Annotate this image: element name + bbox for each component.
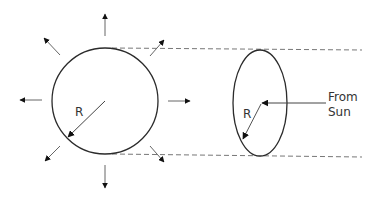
arrow-up-left-icon: [44, 38, 60, 55]
earth-radius-label: R: [243, 107, 251, 121]
from-sun-label-line2: Sun: [328, 105, 351, 119]
from-sun-label-line1: From: [328, 90, 358, 104]
diagram-canvas: R R From Sun: [0, 0, 381, 200]
sun-radius-label: R: [75, 105, 83, 119]
dashed-line-top: [112, 48, 362, 50]
dashed-line-bottom: [112, 154, 362, 157]
arrow-down-left-icon: [45, 146, 60, 161]
